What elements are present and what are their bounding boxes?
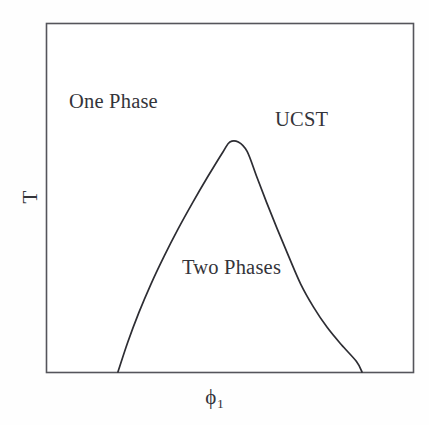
phase-diagram-figure: One Phase UCST Two Phases T ϕ1 xyxy=(0,0,429,425)
x-axis-label-variable: ϕ xyxy=(205,385,216,409)
plot-canvas xyxy=(0,0,429,425)
plot-frame xyxy=(47,24,414,373)
x-axis-label: ϕ1 xyxy=(0,387,429,410)
region-label-two-phases: Two Phases xyxy=(182,257,281,278)
region-label-one-phase: One Phase xyxy=(69,91,158,112)
critical-point-label-ucst: UCST xyxy=(275,109,328,130)
x-axis-label-subscript: 1 xyxy=(217,396,224,411)
y-axis-label: T xyxy=(13,180,47,214)
